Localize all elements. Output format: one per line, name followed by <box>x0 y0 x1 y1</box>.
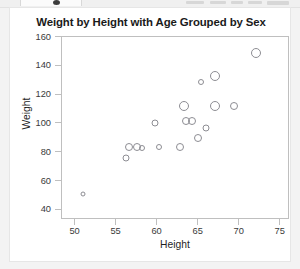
y-tick-label: 80 <box>41 147 55 157</box>
chart-title: Weight by Height with Age Grouped by Sex <box>10 16 292 28</box>
x-tick-label: 55 <box>110 226 120 236</box>
scatter-point <box>194 134 202 142</box>
scatter-point <box>156 144 162 150</box>
scatter-point <box>203 124 210 131</box>
x-axis-tick: 70 <box>238 219 239 225</box>
x-tick-label: 70 <box>233 226 243 236</box>
scatter-point <box>210 71 220 81</box>
scatter-point <box>81 192 86 197</box>
chrome-favicon <box>53 0 60 5</box>
x-tick-mark <box>156 219 157 225</box>
x-tick-mark <box>197 219 198 225</box>
y-tick-label: 40 <box>41 204 55 214</box>
y-tick-label: 100 <box>35 118 55 128</box>
y-axis-label: Weight <box>21 84 32 144</box>
x-tick-mark <box>279 219 280 225</box>
scatter-point <box>179 101 189 111</box>
x-axis-tick: 55 <box>115 219 116 225</box>
scatter-point <box>230 102 238 110</box>
scatter-point <box>251 48 261 58</box>
x-tick-mark <box>74 219 75 225</box>
plot-area <box>61 36 289 219</box>
scatter-point <box>139 145 145 151</box>
x-axis-tick: 50 <box>74 219 75 225</box>
chrome-toolbar-chip <box>248 1 262 4</box>
x-tick-label: 65 <box>192 226 202 236</box>
x-tick-mark <box>238 219 239 225</box>
x-axis-tick: 75 <box>279 219 280 225</box>
y-tick-label: 160 <box>35 32 55 42</box>
x-tick-label: 50 <box>69 226 79 236</box>
x-axis-tick: 60 <box>156 219 157 225</box>
x-axis-tick: 65 <box>197 219 198 225</box>
y-tick-label: 140 <box>35 60 55 70</box>
y-tick-label: 120 <box>35 89 55 99</box>
x-tick-label: 60 <box>151 226 161 236</box>
x-tick-mark <box>115 219 116 225</box>
chrome-tab-outline <box>20 0 82 6</box>
scatter-point <box>198 79 204 85</box>
scatter-point <box>188 117 196 125</box>
chart-figure-card: Weight by Height with Age Grouped by Sex… <box>9 7 291 262</box>
chrome-toolbar-chip <box>210 1 226 4</box>
chrome-toolbar-chip <box>186 1 204 4</box>
scatter-point <box>152 120 159 127</box>
y-tick-label: 60 <box>41 176 55 186</box>
chrome-toolbar-chip <box>231 1 243 4</box>
scatter-point <box>176 143 184 151</box>
scatter-point <box>210 101 220 111</box>
scatter-point <box>125 143 133 151</box>
scatter-point <box>122 155 129 162</box>
x-tick-label: 75 <box>274 226 284 236</box>
chrome-toolbar-chip <box>267 1 289 5</box>
x-axis-label: Height <box>61 239 289 250</box>
